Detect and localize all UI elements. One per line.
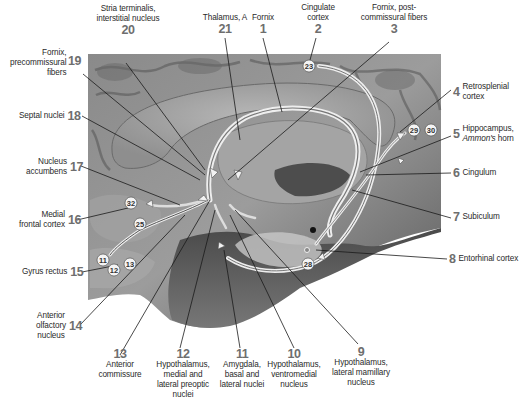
label-hypothalamus-mamillary: 9 Hypothalamus, lateral mamillary nucleu… bbox=[326, 346, 396, 388]
svg-text:28: 28 bbox=[304, 260, 312, 269]
label-nucleus-accumbens: Nucleus accumbens 17 bbox=[26, 157, 83, 177]
svg-text:12: 12 bbox=[110, 266, 118, 275]
marker-30: 30 bbox=[425, 124, 437, 136]
marker-32: 32 bbox=[125, 197, 137, 209]
svg-text:29: 29 bbox=[410, 126, 418, 135]
svg-text:23: 23 bbox=[305, 62, 313, 71]
label-septal-nuclei: Septal nuclei 18 bbox=[19, 110, 81, 122]
label-hypothalamus-ventromedial: 10 Hypothalamus, ventromedial nucleus bbox=[262, 348, 326, 390]
label-fornix-postcommissural: Fornix, post- commissural fibers 3 bbox=[354, 3, 434, 35]
marker-28: 28 bbox=[302, 258, 314, 270]
label-stria-terminalis: Stria terminalis, interstitial nucleus 2… bbox=[88, 4, 168, 36]
label-retrosplenial-cortex: 4 Retrosplenial cortex bbox=[453, 82, 509, 102]
marker-12: 12 bbox=[108, 264, 120, 276]
label-gyrus-rectus: Gyrus rectus 15 bbox=[22, 266, 83, 278]
svg-text:30: 30 bbox=[427, 126, 435, 135]
marker-25: 25 bbox=[134, 218, 146, 230]
label-num-19: 19 bbox=[68, 55, 81, 67]
svg-text:25: 25 bbox=[136, 220, 144, 229]
label-fornix: Fornix 1 bbox=[243, 13, 283, 35]
svg-text:11: 11 bbox=[99, 256, 107, 265]
label-entorhinal-cortex: 8 Entorhinal cortex bbox=[449, 253, 518, 265]
marker-29: 29 bbox=[408, 124, 420, 136]
label-cingulum: 6 Cingulum bbox=[453, 167, 496, 179]
marker-11: 11 bbox=[97, 254, 109, 266]
svg-text:32: 32 bbox=[127, 199, 135, 208]
marker-13: 13 bbox=[124, 258, 136, 270]
label-hippocampus: 5 Hippocampus, Ammon's horn bbox=[453, 124, 514, 144]
label-cingulate-cortex: Cingulate cortex 2 bbox=[293, 3, 343, 35]
label-medial-frontal-cortex: Medial frontal cortex 16 bbox=[19, 210, 81, 230]
brain-diagram: 23 29 30 32 25 11 12 13 28 Stria termina… bbox=[0, 0, 529, 409]
label-anterior-olfactory-nucleus: Anterior olfactory nucleus 14 bbox=[36, 311, 82, 341]
svg-text:13: 13 bbox=[126, 260, 134, 269]
marker-23: 23 bbox=[303, 60, 315, 72]
label-fornix-precommissural: Fornix, precommissural fibers bbox=[10, 48, 66, 78]
label-subiculum: 7 Subiculum bbox=[453, 211, 500, 223]
